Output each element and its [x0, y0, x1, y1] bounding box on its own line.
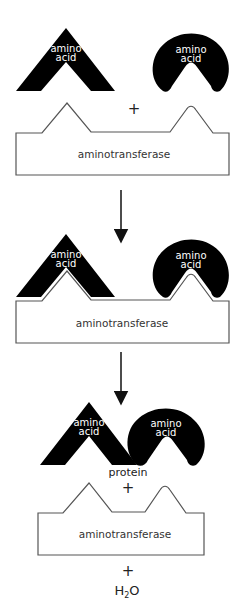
- water-label: H2O: [114, 583, 139, 600]
- protein-label: protein: [108, 466, 147, 479]
- stage-1: amino acid amino acid + aminotransferase: [16, 28, 229, 175]
- enzyme-label: aminotransferase: [76, 317, 169, 329]
- plus-sign: +: [128, 100, 141, 118]
- amino-acid-triangle: amino acid: [16, 28, 115, 91]
- enzyme-aminotransferase: aminotransferase: [16, 103, 229, 175]
- protein-product: amino acid amino acid protein: [40, 402, 205, 479]
- molecule-label: acid: [156, 427, 177, 438]
- enzyme-label: aminotransferase: [78, 148, 171, 160]
- molecule-label: acid: [56, 52, 77, 63]
- stage-3: amino acid amino acid protein + aminotra…: [38, 402, 205, 600]
- amino-acid-protein-synthesis-diagram: amino acid amino acid + aminotransferase…: [0, 0, 240, 610]
- plus-sign: +: [122, 562, 135, 580]
- molecule-label: acid: [181, 259, 202, 270]
- stage-2: aminotransferase amino acid amino acid: [16, 234, 229, 343]
- molecule-label: acid: [79, 426, 100, 437]
- plus-sign: +: [122, 479, 135, 497]
- molecule-label: acid: [181, 53, 202, 64]
- molecule-label: acid: [56, 258, 77, 269]
- amino-acid-arc: amino acid: [153, 33, 229, 91]
- enzyme-label: aminotransferase: [79, 528, 172, 540]
